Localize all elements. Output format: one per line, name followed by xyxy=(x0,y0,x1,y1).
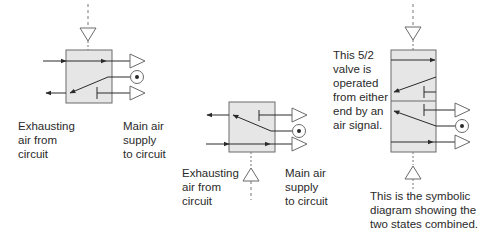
pilot-signal-triangle-top xyxy=(405,27,421,40)
supply-label-state-1: Main air supply to circuit xyxy=(123,119,166,161)
valve-state-1 xyxy=(43,4,145,103)
output-port-triangle xyxy=(130,86,145,100)
combined-caption: This is the symbolic diagram showing the… xyxy=(370,189,478,231)
output-port-triangle xyxy=(130,54,145,68)
output-port-triangle xyxy=(455,135,470,149)
exhaust-label-state-2: Exhausting air from circuit xyxy=(182,166,239,208)
output-port-triangle xyxy=(455,103,470,117)
pilot-signal-triangle-bottom xyxy=(405,166,421,179)
output-port-triangle xyxy=(292,108,307,122)
valve-description: This 5/2 valve is operated from either e… xyxy=(333,48,388,132)
valve-body xyxy=(66,50,112,103)
pilot-signal-triangle-top xyxy=(80,28,96,41)
valve-combined xyxy=(391,4,470,190)
pilot-signal-triangle-bottom xyxy=(243,168,259,181)
output-port-triangle xyxy=(292,137,307,151)
supply-label-state-2: Main air supply to circuit xyxy=(285,166,328,208)
exhaust-label-state-1: Exhausting air from circuit xyxy=(18,119,75,161)
